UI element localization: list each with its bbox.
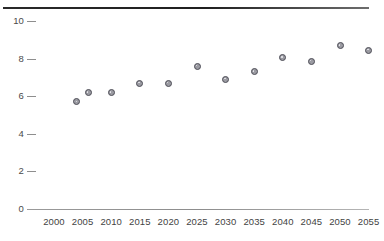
y-axis-tick-label: 4 bbox=[4, 129, 24, 139]
scatter-point[interactable] bbox=[73, 98, 80, 105]
y-axis-tick-label: 8 bbox=[4, 54, 24, 64]
scatter-point[interactable] bbox=[365, 47, 372, 54]
scatter-point[interactable] bbox=[251, 68, 258, 75]
y-axis-tick-label: 0 bbox=[4, 204, 24, 214]
y-axis-tick-text: 2 bbox=[4, 166, 24, 176]
scatter-point[interactable] bbox=[222, 76, 229, 83]
scatter-point[interactable] bbox=[85, 89, 92, 96]
y-axis-tick-text: 8 bbox=[4, 54, 24, 64]
y-axis-tick-text: 10 bbox=[4, 16, 24, 26]
x-axis-tick-label: 2055 bbox=[352, 217, 384, 227]
scatter-point[interactable] bbox=[337, 42, 344, 49]
y-axis-tick-label: 6 bbox=[4, 91, 24, 101]
scatter-point[interactable] bbox=[136, 80, 143, 87]
scatter-point[interactable] bbox=[165, 80, 172, 87]
y-axis-tick-mark bbox=[27, 21, 36, 22]
scatter-point[interactable] bbox=[194, 63, 201, 70]
y-axis-tick-mark bbox=[27, 134, 36, 135]
y-axis-tick-text: 0 bbox=[4, 204, 24, 214]
x-axis-line bbox=[27, 209, 369, 210]
y-axis-tick-text: 4 bbox=[4, 129, 24, 139]
y-axis-tick-label: 2 bbox=[4, 166, 24, 176]
y-axis-tick-text: 6 bbox=[4, 91, 24, 101]
y-axis-tick-mark bbox=[27, 96, 36, 97]
scatter-point[interactable] bbox=[279, 54, 286, 61]
y-axis-tick-mark bbox=[27, 59, 36, 60]
scatter-point[interactable] bbox=[308, 58, 315, 65]
y-axis-tick-label: 10 bbox=[4, 16, 24, 26]
y-axis-tick-mark bbox=[27, 171, 36, 172]
scatter-point[interactable] bbox=[108, 89, 115, 96]
